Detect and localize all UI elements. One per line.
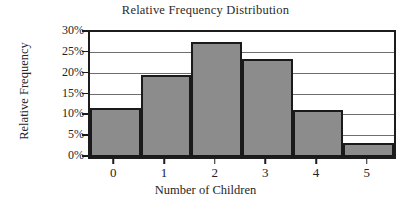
x-axis-tick-label: 5 <box>363 165 370 181</box>
bar <box>293 110 344 157</box>
y-axis-tick-label: 5% <box>40 127 84 142</box>
x-axis-tick-labels: 012345 <box>88 165 392 183</box>
y-axis-title-container: Relative Frequency <box>14 26 34 156</box>
chart-title: Relative Frequency Distribution <box>0 3 411 18</box>
bar <box>191 42 242 157</box>
x-axis-tick-marks <box>88 157 392 164</box>
bar <box>242 59 293 157</box>
x-axis-tick-mark <box>113 157 115 164</box>
x-axis-tick-mark <box>366 157 368 164</box>
x-axis-tick-label: 4 <box>313 165 320 181</box>
histogram-figure: Relative Frequency Distribution Relative… <box>0 0 411 209</box>
y-axis-tick-label: 25% <box>40 43 84 58</box>
bar <box>343 143 394 157</box>
bar-series <box>90 32 394 157</box>
x-axis-tick-mark <box>163 157 165 164</box>
plot-area <box>88 30 396 159</box>
y-axis-tick-label: 10% <box>40 106 84 121</box>
x-axis-tick-label: 2 <box>211 165 218 181</box>
x-axis-tick-label: 0 <box>110 165 117 181</box>
bar <box>90 108 141 157</box>
x-axis-tick-mark <box>214 157 216 164</box>
bar <box>141 75 192 157</box>
y-axis-tick-labels: 0%5%10%15%20%25%30% <box>36 30 84 155</box>
y-axis-title: Relative Frequency <box>17 42 32 140</box>
x-axis-tick-mark <box>265 157 267 164</box>
x-axis-title: Number of Children <box>0 183 411 198</box>
y-axis-tick-label: 15% <box>40 85 84 100</box>
x-axis-tick-label: 3 <box>262 165 269 181</box>
y-axis-tick-label: 30% <box>40 23 84 38</box>
y-axis-tick-label: 20% <box>40 64 84 79</box>
y-axis-tick-label: 0% <box>40 148 84 163</box>
x-axis-tick-mark <box>315 157 317 164</box>
x-axis-tick-label: 1 <box>161 165 168 181</box>
